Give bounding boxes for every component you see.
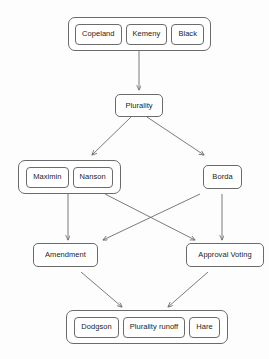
diagram-canvas: Copeland Kemeny Black Plurality Maximin … — [0, 0, 269, 359]
node-maximin[interactable]: Maximin — [26, 167, 68, 188]
group-level-5: Dodgson Plurality runoff Hare — [66, 310, 228, 344]
edge-plurality-to-borda — [147, 117, 204, 155]
edge-approval-voting-to-bottom — [168, 272, 208, 307]
group-maximin-nanson: Maximin Nanson — [18, 160, 121, 194]
node-amendment[interactable]: Amendment — [33, 243, 98, 267]
edge-plurality-to-maximin-nanson — [92, 117, 131, 155]
edge-amendment-to-bottom — [81, 272, 122, 307]
node-copeland[interactable]: Copeland — [75, 24, 122, 45]
node-plurality-runoff[interactable]: Plurality runoff — [123, 317, 186, 338]
node-plurality[interactable]: Plurality — [115, 94, 163, 117]
edge-maximin-nanson-to-approval-voting — [105, 194, 195, 240]
node-nanson[interactable]: Nanson — [73, 167, 113, 188]
group-level-1: Copeland Kemeny Black — [68, 17, 211, 51]
edge-borda-to-amendment — [103, 194, 200, 240]
node-borda[interactable]: Borda — [203, 165, 242, 189]
node-dodgson[interactable]: Dodgson — [74, 317, 118, 338]
node-kemeny[interactable]: Kemeny — [126, 24, 168, 45]
node-approval-voting[interactable]: Approval Voting — [186, 243, 264, 267]
node-hare[interactable]: Hare — [189, 317, 219, 338]
node-black[interactable]: Black — [171, 24, 204, 45]
